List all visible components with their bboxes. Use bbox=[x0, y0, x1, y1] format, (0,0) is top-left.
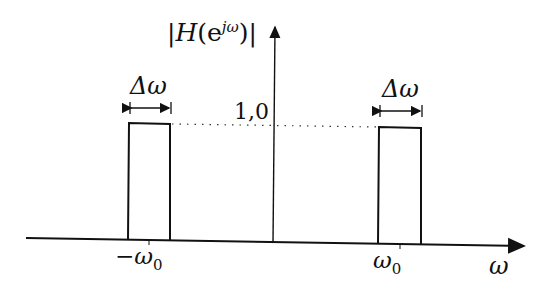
superscript: jω bbox=[222, 18, 239, 36]
y-axis bbox=[273, 27, 275, 243]
level-dotted-line bbox=[172, 124, 378, 127]
paren-open: (e bbox=[197, 18, 222, 47]
level-label: 1,0 bbox=[234, 99, 269, 124]
y-axis-label: |H(ejω)| bbox=[167, 18, 257, 47]
neg-omega0-label: −ω0 bbox=[115, 243, 163, 274]
frequency-response-plot bbox=[0, 0, 545, 292]
x-axis-label: ω bbox=[489, 252, 509, 280]
pos-omega0-label: ω0 bbox=[373, 247, 401, 278]
h-symbol: H bbox=[175, 18, 197, 47]
right-band-rect bbox=[378, 127, 421, 245]
bandwidth-label-right: Δω bbox=[382, 75, 419, 103]
bandwidth-label-left: Δω bbox=[130, 72, 167, 100]
x-axis bbox=[26, 238, 524, 246]
left-band-rect bbox=[128, 123, 170, 241]
abs-bar-right: | bbox=[248, 18, 256, 47]
paren-close: ) bbox=[239, 18, 249, 47]
